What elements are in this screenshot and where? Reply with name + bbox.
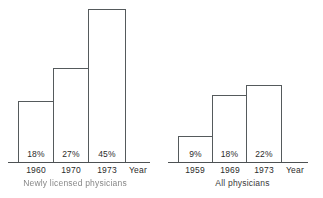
value-label-1959: 9%	[178, 149, 213, 159]
x-axis-title-right: Year	[286, 165, 304, 175]
chart-all-physicians: 9% 18% 22% 1959 1969 1973 Year	[160, 0, 323, 198]
caption-newly-licensed-physicians: Newly licensed physicians	[0, 178, 150, 188]
plot-area-right: 9% 18% 22% 1959 1969 1973 Year	[160, 0, 323, 198]
bar-1973	[88, 9, 126, 163]
value-label-1973: 45%	[88, 149, 126, 159]
x-tick-label-1970: 1970	[51, 165, 91, 175]
caption-all-physicians: All physicians	[170, 178, 315, 188]
value-label-1960: 18%	[18, 149, 54, 159]
value-label-1973: 22%	[246, 149, 282, 159]
value-label-1969: 18%	[212, 149, 247, 159]
bar-chart-figure: 18% 27% 45% 1960 1970 1973 Year 9% 18% 2…	[0, 0, 323, 198]
x-tick-label-1960: 1960	[16, 165, 56, 175]
x-tick-label-1973: 1973	[244, 165, 284, 175]
chart-newly-licensed-physicians: 18% 27% 45% 1960 1970 1973 Year	[0, 0, 170, 198]
x-tick-label-1959: 1959	[175, 165, 215, 175]
x-axis-title-left: Year	[129, 165, 147, 175]
x-tick-label-1973: 1973	[87, 165, 127, 175]
x-axis-left	[8, 162, 150, 163]
x-axis-right	[168, 162, 308, 163]
value-label-1970: 27%	[53, 149, 89, 159]
plot-area-left: 18% 27% 45% 1960 1970 1973 Year	[0, 0, 170, 198]
